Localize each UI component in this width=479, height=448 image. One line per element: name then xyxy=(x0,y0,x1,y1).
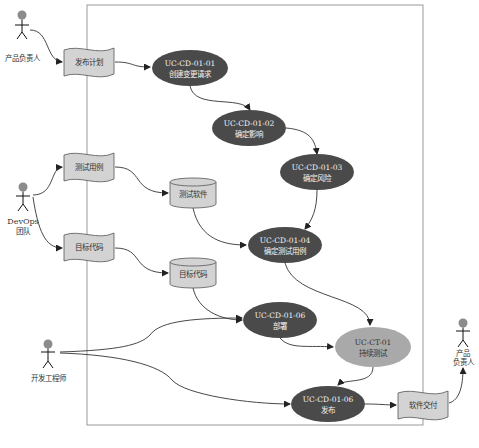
database-test-software: 测试软件 xyxy=(170,178,216,208)
use-case-title: 发布 xyxy=(321,405,336,415)
actor-label: 负责人 xyxy=(453,357,475,367)
edge-dev-to-release xyxy=(60,353,290,404)
use-case-uc-cd-01-06-release: UC-CD-01-06 发布 xyxy=(291,386,365,422)
database-label: 测试软件 xyxy=(179,189,208,199)
edge-uc03-to-uc04 xyxy=(305,190,317,229)
edge-testsoftware-to-uc04 xyxy=(193,208,246,245)
edge-ct01-to-release xyxy=(338,367,373,385)
use-case-diagram: 产品负责人 DevOps 团队 开发工程师 产品 负责人 发布计划 测试用例 xyxy=(0,0,479,448)
actor-head-icon xyxy=(459,319,468,328)
document-release-plan: 发布计划 xyxy=(64,48,114,77)
edge-release-plan-to-uc01 xyxy=(115,62,150,67)
actor-product-owner-2: 产品 负责人 xyxy=(453,319,475,368)
actor-label: 团队 xyxy=(16,227,31,236)
use-case-title: 确定风险 xyxy=(303,173,332,183)
use-case-title: 创建变更请求 xyxy=(169,69,212,79)
actor-head-icon xyxy=(18,11,27,20)
edge-targetcode-to-deploy xyxy=(193,288,242,320)
document-test-cases: 测试用例 xyxy=(64,153,114,182)
document-label: 测试用例 xyxy=(75,162,103,172)
use-case-uc-cd-01-06-deploy: UC-CD-01-06 部署 xyxy=(243,302,317,338)
edge-devops-to-testcases xyxy=(33,167,62,195)
database-label: 目标代码 xyxy=(179,269,208,279)
document-label: 发布计划 xyxy=(75,57,103,67)
document-label: 软件交付 xyxy=(409,400,438,410)
document-target-code: 目标代码 xyxy=(64,233,114,262)
use-case-uc-cd-01-02: UC-CD-01-02 确定影响 xyxy=(212,110,286,146)
use-case-code: UC-CD-01-06 xyxy=(303,395,354,404)
actor-label: 开发工程师 xyxy=(31,373,67,383)
database-target-code: 目标代码 xyxy=(170,258,216,288)
actor-devops-team: DevOps 团队 xyxy=(7,183,38,237)
use-case-uc-cd-01-03: UC-CD-01-03 确定风险 xyxy=(280,154,354,190)
use-case-uc-ct-01: UC-CT-01 持续测试 xyxy=(335,327,411,367)
edge-uc01-to-uc02 xyxy=(190,86,250,110)
use-case-code: UC-CT-01 xyxy=(355,338,391,347)
use-case-code: UC-CD-01-04 xyxy=(260,236,311,245)
use-case-code: UC-CD-01-03 xyxy=(292,163,343,172)
actor-label: 产品 xyxy=(456,348,470,358)
edge-deploy-to-ct01 xyxy=(280,338,333,347)
document-label: 目标代码 xyxy=(75,242,104,252)
actor-head-icon xyxy=(44,340,53,349)
edge-release-to-delivery xyxy=(365,404,396,405)
edge-targetcode-to-db xyxy=(115,248,168,273)
use-case-title: 确定测试用例 xyxy=(264,246,306,256)
edge-testcases-to-testsoftware xyxy=(115,167,168,193)
actor-head-icon xyxy=(19,183,28,192)
use-case-uc-cd-01-04: UC-CD-01-04 确定测试用例 xyxy=(248,227,322,263)
actor-product-owner-1: 产品负责人 xyxy=(5,11,41,64)
actor-label: 产品负责人 xyxy=(5,53,41,63)
document-software-delivery: 软件交付 xyxy=(398,391,448,420)
use-case-code: UC-CD-01-06 xyxy=(255,311,306,320)
use-case-code: UC-CD-01-02 xyxy=(224,119,275,128)
edge-uc02-to-uc03 xyxy=(286,128,317,154)
actor-developer: 开发工程师 xyxy=(31,340,67,384)
actor-label: DevOps xyxy=(7,217,38,226)
use-case-title: 确定影响 xyxy=(235,129,263,139)
use-case-title: 部署 xyxy=(273,321,288,331)
edge-delivery-to-owner xyxy=(449,368,463,403)
use-case-title: 持续测试 xyxy=(359,348,388,358)
use-case-code: UC-CD-01-01 xyxy=(165,59,216,68)
use-case-uc-cd-01-01: UC-CD-01-01 创建变更请求 xyxy=(152,50,228,86)
